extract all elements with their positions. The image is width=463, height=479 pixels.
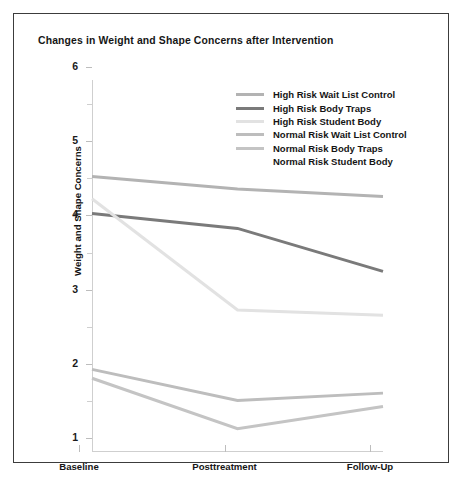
- figure-canvas: Changes in Weight and Shape Concerns aft…: [0, 0, 463, 479]
- legend-item[interactable]: High Risk Student Body: [236, 115, 407, 128]
- legend-swatch-icon: [236, 120, 264, 123]
- legend-item[interactable]: High Risk Body Traps: [236, 101, 407, 114]
- chart-legend: High Risk Wait List ControlHigh Risk Bod…: [236, 88, 407, 168]
- legend-swatch-icon: [236, 107, 264, 110]
- legend-swatch-icon: [236, 147, 264, 150]
- series-line: [92, 369, 383, 400]
- legend-item[interactable]: Normal Risk Wait List Control: [236, 128, 407, 141]
- legend-label: High Risk Wait List Control: [273, 89, 395, 100]
- series-line: [92, 176, 383, 196]
- legend-swatch-icon: [236, 133, 264, 136]
- legend-swatch-icon: [236, 160, 264, 163]
- legend-swatch-icon: [236, 93, 264, 96]
- legend-label: High Risk Student Body: [273, 116, 381, 127]
- legend-item[interactable]: High Risk Wait List Control: [236, 88, 407, 101]
- legend-label: Normal Risk Wait List Control: [273, 129, 407, 140]
- legend-label: Normal Risk Student Body: [273, 156, 393, 167]
- series-line: [92, 378, 383, 428]
- legend-label: Normal Risk Body Traps: [273, 143, 383, 154]
- legend-item[interactable]: Normal Risk Body Traps: [236, 142, 407, 155]
- chart-card: Changes in Weight and Shape Concerns aft…: [13, 13, 449, 463]
- series-line: [92, 214, 383, 272]
- legend-item[interactable]: Normal Risk Student Body: [236, 155, 407, 168]
- legend-label: High Risk Body Traps: [273, 103, 371, 114]
- series-lines: [14, 14, 463, 479]
